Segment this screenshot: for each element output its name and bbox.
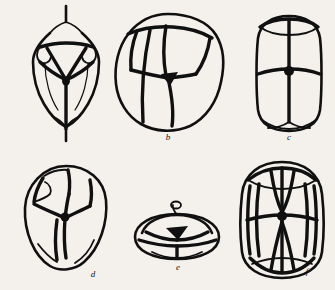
panel-d-basal-arc-right [75,240,94,263]
panel-a-label: a [64,122,69,132]
panel-d: d [25,166,106,279]
panel-a: a [33,6,99,141]
panel-f-wedge-upper-right [282,171,294,212]
panel-a-apical-triangle [47,48,86,80]
panel-f: f [241,162,324,278]
panel-e-label: e [176,262,180,272]
plate-canvas: a b [0,0,335,290]
panel-a-outline-left [33,33,66,127]
panel-f-junction-node [277,211,287,221]
panel-f-lateral-left-2 [257,184,259,256]
panel-c: c [257,16,322,142]
panel-d-junction-node [61,213,70,222]
panel-b-wall-median-upper [164,26,166,76]
panel-a-junction-node [62,77,70,86]
panel-d-wall-lower-median [64,218,66,258]
panel-e: e [135,202,219,273]
panel-f-lateral-right-2 [305,184,307,256]
panel-b-wall-lower-left [142,30,150,122]
panel-d-wall-mid-left [34,204,65,218]
panel-a-transverse-wall [40,43,93,47]
panel-d-wall-a3 [90,180,92,206]
panel-b-label: b [166,132,171,142]
panel-b-junction-node [161,72,178,86]
panel-c-label: c [287,132,291,142]
panel-d-wall-a2 [68,170,70,194]
panel-b-top-wall [128,27,212,38]
panel-a-apex-left [50,22,66,33]
panel-a-apex-right [66,22,82,33]
panel-b: b [116,14,224,142]
panel-f-wedge-lower-right [282,222,294,270]
panel-c-junction-node [284,66,294,76]
panel-d-label: d [91,269,96,279]
panel-d-wall-lower-second [56,220,58,260]
panel-b-wall-upper-right [196,38,210,74]
panel-b-wall-upper-left [131,31,137,70]
figure-plate: a b [0,0,335,290]
